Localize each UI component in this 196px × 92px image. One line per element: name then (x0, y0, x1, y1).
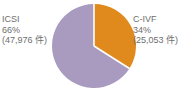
pie-label-civf-count: (25,053 件) (133, 35, 178, 46)
pie-label-icsi: ICSI 66% (47,976 件) (2, 14, 47, 46)
pie-chart-figure: ICSI 66% (47,976 件) C-IVF 34% (25,053 件) (0, 0, 196, 92)
pie-label-civf: C-IVF 34% (25,053 件) (133, 14, 178, 46)
pie-label-civf-name: C-IVF (133, 14, 178, 25)
pie-label-icsi-percent: 66% (2, 25, 47, 36)
pie-label-civf-percent: 34% (133, 25, 178, 36)
pie-label-icsi-name: ICSI (2, 14, 47, 25)
pie-label-icsi-count: (47,976 件) (2, 35, 47, 46)
